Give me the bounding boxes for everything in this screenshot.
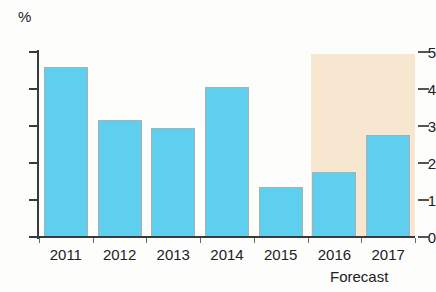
bar-2015 (259, 187, 303, 237)
y-tick-mark-right (418, 162, 429, 164)
bar-2011 (44, 67, 88, 237)
y-tick-mark-right (418, 51, 429, 53)
x-tick-label-2017: 2017 (371, 246, 404, 263)
x-tick-mark (93, 238, 94, 243)
plot-area: % 543210 2011201220132014201520162017 Fo… (0, 0, 436, 292)
bar-2013 (151, 128, 195, 237)
x-tick-label-2015: 2015 (264, 246, 297, 263)
y-tick-mark (29, 162, 38, 164)
y-tick-mark (29, 88, 38, 90)
bar-2014 (205, 87, 249, 237)
x-tick-mark (415, 238, 416, 243)
bar-chart: % 543210 2011201220132014201520162017 Fo… (0, 0, 436, 292)
x-tick-label-2012: 2012 (103, 246, 136, 263)
y-tick-mark-right (418, 88, 429, 90)
y-tick-mark-right (418, 199, 429, 201)
x-tick-mark (361, 238, 362, 243)
y-tick-mark (29, 125, 38, 127)
y-tick-mark (29, 51, 38, 53)
x-tick-mark (308, 238, 309, 243)
bar-2012 (98, 120, 142, 237)
y-tick-mark (29, 199, 38, 201)
x-tick-label-2016: 2016 (318, 246, 351, 263)
y-axis-line (37, 50, 39, 239)
bar-2017 (366, 135, 410, 237)
bar-2016 (312, 172, 356, 237)
x-tick-label-2011: 2011 (50, 246, 82, 263)
y-axis-unit-label: % (18, 8, 32, 25)
y-tick-mark-right (418, 236, 429, 238)
y-tick-mark-right (418, 125, 429, 127)
x-tick-mark (146, 238, 147, 243)
x-tick-mark (39, 238, 40, 243)
forecast-caption: Forecast (330, 268, 388, 285)
x-tick-mark (200, 238, 201, 243)
x-tick-mark (254, 238, 255, 243)
x-tick-label-2014: 2014 (210, 246, 243, 263)
x-tick-label-2013: 2013 (157, 246, 190, 263)
